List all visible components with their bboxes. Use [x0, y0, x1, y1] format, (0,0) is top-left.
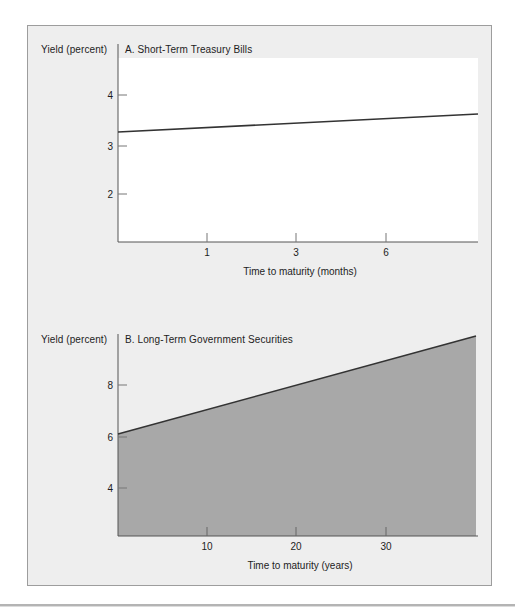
panel-a-x-axis-caption: Time to maturity (months)	[243, 266, 357, 277]
panel-a-plot-area	[28, 26, 493, 291]
panel-a-xtick-6: 6	[374, 247, 398, 258]
page-divider-rule	[0, 604, 515, 606]
panel-b-xtick-10: 10	[195, 541, 219, 552]
panel-b-plot-area	[28, 316, 493, 581]
chart-panel-b: Yield (percent) B. Long-Term Government …	[28, 316, 493, 581]
panel-b-xtick-30: 30	[374, 541, 398, 552]
panel-a-xtick-1: 1	[195, 247, 219, 258]
panel-a-xtick-3: 3	[284, 247, 308, 258]
panel-b-xtick-20: 20	[284, 541, 308, 552]
chart-panel-a: Yield (percent) A. Short-Term Treasury B…	[28, 26, 493, 291]
figure-frame: Yield (percent) A. Short-Term Treasury B…	[27, 25, 492, 586]
panel-b-x-axis-caption: Time to maturity (years)	[247, 560, 352, 571]
